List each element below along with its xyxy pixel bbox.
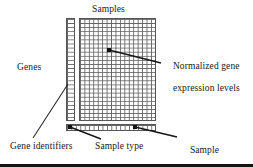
leader-line-gene-identifiers — [33, 84, 68, 138]
genes-axis-label: Genes — [17, 62, 41, 73]
sample-class-label-bar-grid — [66, 124, 156, 131]
sample-type-callout: Sample type — [95, 141, 143, 152]
gene-identifier-column-grid — [66, 18, 75, 121]
sample-class-labels-callout: Sample class labels — [180, 134, 234, 167]
figure-canvas: Samples Genes Normalized gene expression… — [0, 0, 253, 167]
samples-axis-label: Samples — [92, 4, 125, 15]
expression-matrix-grid — [79, 18, 156, 121]
normalized-callout-line1: Normalized gene — [173, 61, 240, 71]
bottom-divider-rule — [0, 164, 253, 167]
sample-class-callout-line1: Sample — [190, 145, 219, 155]
sample-type-callout-marker-icon — [68, 125, 72, 129]
sample-class-callout-marker-icon — [133, 125, 137, 129]
matrix-callout-marker-icon — [107, 48, 111, 52]
normalized-expression-callout: Normalized gene expression levels — [163, 50, 240, 105]
gene-identifiers-callout: Gene identifiers — [10, 141, 73, 152]
normalized-callout-line2: expression levels — [173, 83, 240, 93]
